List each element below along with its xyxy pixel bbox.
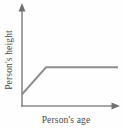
height-vs-age-line xyxy=(22,67,118,94)
x-axis-label: Person's age xyxy=(42,115,91,125)
right-arrow-icon xyxy=(112,103,121,110)
up-arrow-icon xyxy=(19,3,26,12)
y-axis-label: Person's height xyxy=(4,30,14,90)
chart-figure: Person's age Person's height xyxy=(0,0,124,128)
chart-canvas: Person's age Person's height xyxy=(0,0,124,128)
